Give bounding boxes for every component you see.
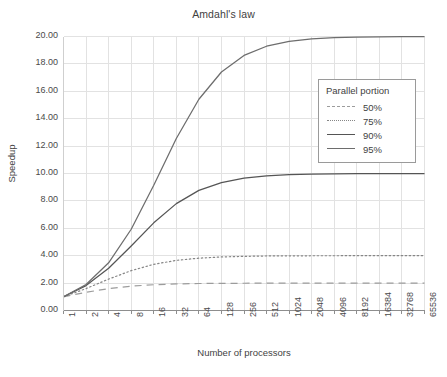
x-tick-label: 2 <box>90 311 100 316</box>
legend-item-label: 95% <box>363 144 382 155</box>
legend-item-50pct[interactable]: 50% <box>326 100 408 114</box>
x-tick-label: 2048 <box>315 296 325 316</box>
legend-swatch-icon <box>326 130 356 140</box>
x-tick-label: 8192 <box>360 296 370 316</box>
legend-item-75pct[interactable]: 75% <box>326 114 408 128</box>
x-tick-label: 1 <box>67 311 77 316</box>
legend-item-95pct[interactable]: 95% <box>326 142 408 156</box>
x-tick-label: 4 <box>112 311 122 316</box>
legend-item-label: 75% <box>363 116 382 127</box>
legend-item-label: 90% <box>363 130 382 141</box>
x-tick-label: 32 <box>180 306 190 316</box>
x-tick-label: 64 <box>202 306 212 316</box>
amdahls-law-chart: Amdahl's law 0.002.004.006.008.0010.0012… <box>0 0 447 377</box>
legend-item-90pct[interactable]: 90% <box>326 128 408 142</box>
x-tick-label: 1024 <box>293 296 303 316</box>
legend-swatch-icon <box>326 116 356 126</box>
legend-title: Parallel portion <box>326 85 408 96</box>
x-tick-label: 16 <box>157 306 167 316</box>
x-tick-label: 8 <box>135 311 145 316</box>
x-tick-label: 65536 <box>428 291 438 316</box>
x-tick-label: 128 <box>225 301 235 316</box>
legend-swatch-icon <box>326 102 356 112</box>
x-axis-ticks: 1248163264128256512102420484096819216384… <box>0 0 447 377</box>
x-tick-label: 4096 <box>338 296 348 316</box>
x-tick-label: 32768 <box>405 291 415 316</box>
legend-item-label: 50% <box>363 102 382 113</box>
x-axis-label: Number of processors <box>63 347 425 358</box>
legend-swatch-icon <box>326 144 356 154</box>
legend-rows: 50%75%90%95% <box>326 100 408 156</box>
x-tick-label: 16384 <box>383 291 393 316</box>
y-axis-label: Speedup <box>6 134 17 194</box>
legend: Parallel portion 50%75%90%95% <box>318 79 416 163</box>
x-tick-label: 256 <box>248 301 258 316</box>
x-tick-label: 512 <box>270 301 280 316</box>
